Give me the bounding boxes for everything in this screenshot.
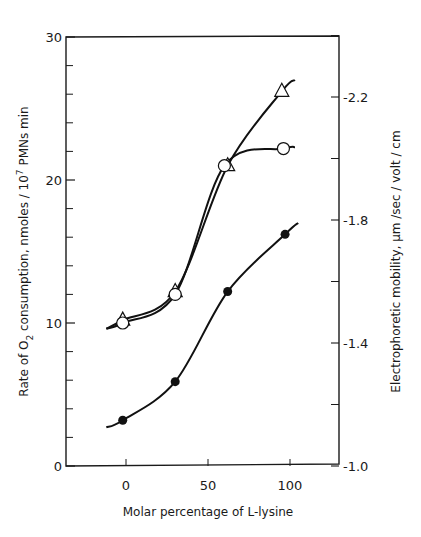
y-tick-label: 30 xyxy=(45,30,62,45)
x-tick-label: 100 xyxy=(278,478,303,493)
filled-circle-marker xyxy=(118,416,127,425)
open-circle-marker xyxy=(117,317,129,329)
y-tick-label: 20 xyxy=(45,173,62,188)
y-right-axis-label: Electrophoretic mobility, μm /sec / volt… xyxy=(389,130,403,392)
chart: 0102030-1.0-1.4-1.8-2.2050100Molar perce… xyxy=(0,0,421,537)
y-axis-label: Rate of O2 consumption, nmoles / 107 PMN… xyxy=(15,106,35,396)
filled-circle-marker xyxy=(223,287,232,296)
open-circle-marker xyxy=(218,160,230,172)
filled-circle-marker xyxy=(281,230,290,239)
open-circle-marker xyxy=(169,288,181,300)
y-right-tick-label: -1.8 xyxy=(343,213,368,228)
plot-frame xyxy=(66,36,339,466)
data-curves xyxy=(106,80,298,427)
x-tick-label: 0 xyxy=(122,478,130,493)
y-tick-label: 10 xyxy=(45,316,62,331)
filled-circle-marker xyxy=(171,377,180,386)
y-right-tick-label: -1.0 xyxy=(343,459,368,474)
open-circle-marker xyxy=(277,143,289,155)
x-axis-label: Molar percentage of L-lysine xyxy=(123,505,293,519)
axis-ticks xyxy=(66,36,339,467)
series-curve xyxy=(106,147,295,329)
axis-labels: 0102030-1.0-1.4-1.8-2.2050100Molar perce… xyxy=(15,30,403,519)
y-tick-label: 0 xyxy=(54,459,62,474)
series-curve xyxy=(106,80,295,329)
y-right-tick-label: -1.4 xyxy=(343,336,368,351)
series-curve xyxy=(106,223,298,427)
x-tick-label: 50 xyxy=(200,478,217,493)
y-right-tick-label: -2.2 xyxy=(343,90,368,105)
